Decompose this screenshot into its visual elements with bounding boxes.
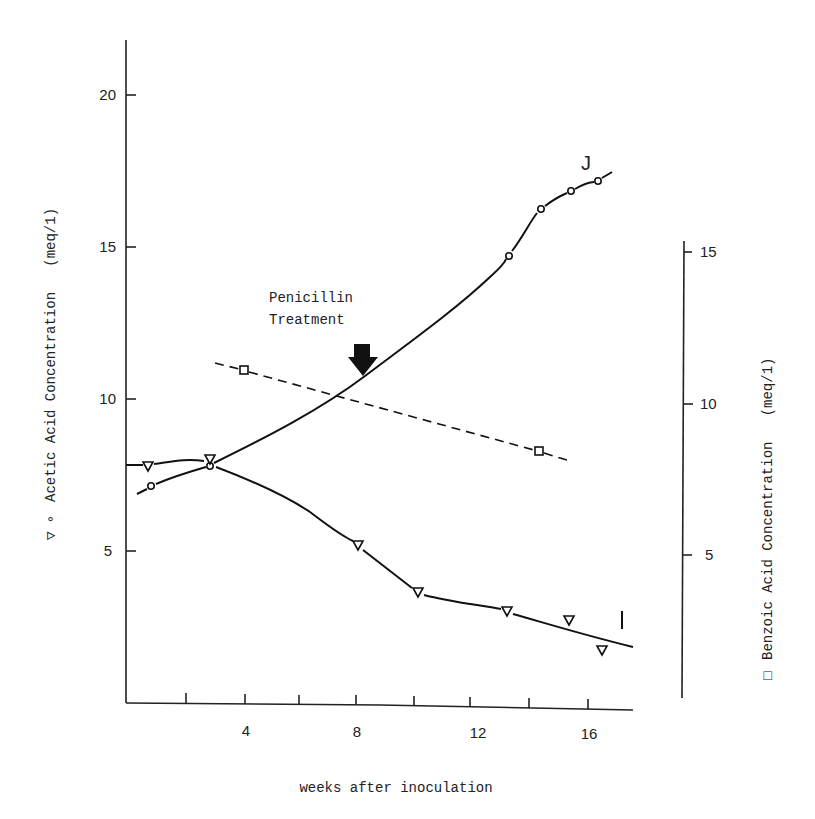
x-axis-title: weeks after inoculation xyxy=(299,780,492,796)
marker-square xyxy=(240,366,248,374)
y-tick-20: 20 xyxy=(99,86,116,103)
right-y-tick-labels: 15 10 5 xyxy=(700,243,717,563)
marker-triangle xyxy=(502,607,512,616)
y-tick-10: 10 xyxy=(99,390,116,407)
annotation-line1: Penicillin xyxy=(269,290,353,306)
left-y-tick-labels: 20 15 10 5 xyxy=(99,86,116,559)
curve-j-markers xyxy=(148,178,601,489)
marker-circle xyxy=(506,253,512,259)
x-tick-12: 12 xyxy=(470,724,487,741)
curve-i-line xyxy=(126,460,633,647)
benzoic-line xyxy=(215,363,570,461)
y-axis-title: Acetic Acid Concentration (meq/1) xyxy=(43,208,59,502)
x-tick-16: 16 xyxy=(581,725,598,742)
marker-triangle xyxy=(353,541,363,550)
marker-triangle xyxy=(597,646,607,655)
y2-tick-15: 15 xyxy=(700,243,717,260)
x-axis xyxy=(126,693,633,710)
y-tick-15: 15 xyxy=(99,238,116,255)
curve-i-label: I xyxy=(628,612,634,634)
down-arrow-icon xyxy=(348,344,378,376)
left-y-axis xyxy=(126,40,136,703)
marker-triangle xyxy=(143,462,153,471)
y-axis-title-group: ▽ ∘ Acetic Acid Concentration (meq/1) xyxy=(43,208,59,540)
curve-j-label: J xyxy=(581,152,591,174)
y2-axis-title-marker: □ xyxy=(760,671,776,680)
curve-j-line xyxy=(137,172,612,494)
y2-axis-title: Benzoic Acid Concentration (meq/1) xyxy=(760,358,776,660)
marker-square xyxy=(535,447,543,455)
y2-tick-10: 10 xyxy=(700,395,717,412)
x-tick-4: 4 xyxy=(242,722,250,739)
x-tick-8: 8 xyxy=(353,723,361,740)
y-axis-title-markers: ▽ ∘ xyxy=(43,515,59,540)
marker-triangle xyxy=(413,588,423,597)
y2-axis-title-group: □ Benzoic Acid Concentration (meq/1) xyxy=(760,358,776,680)
marker-circle xyxy=(148,483,154,489)
marker-circle xyxy=(595,178,601,184)
marker-circle xyxy=(538,206,544,212)
chart-canvas: 20 15 10 5 4 8 12 16 weeks after inocula… xyxy=(0,0,815,819)
x-tick-labels: 4 8 12 16 xyxy=(242,722,598,742)
marker-triangle xyxy=(564,616,574,625)
marker-triangle xyxy=(205,455,215,464)
annotation-line2: Treatment xyxy=(269,312,345,328)
y-tick-5: 5 xyxy=(104,542,112,559)
y2-tick-5: 5 xyxy=(705,546,713,563)
curve-i-markers xyxy=(143,455,607,655)
marker-circle xyxy=(568,188,574,194)
benzoic-markers xyxy=(240,366,543,455)
right-y-axis xyxy=(682,241,693,698)
